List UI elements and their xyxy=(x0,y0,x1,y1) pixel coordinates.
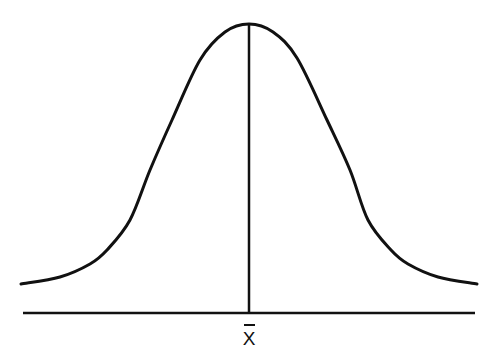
bell-curve-diagram xyxy=(0,0,494,353)
overbar xyxy=(244,324,255,326)
mean-label-text: X xyxy=(243,328,256,349)
mean-label: X xyxy=(242,324,256,348)
